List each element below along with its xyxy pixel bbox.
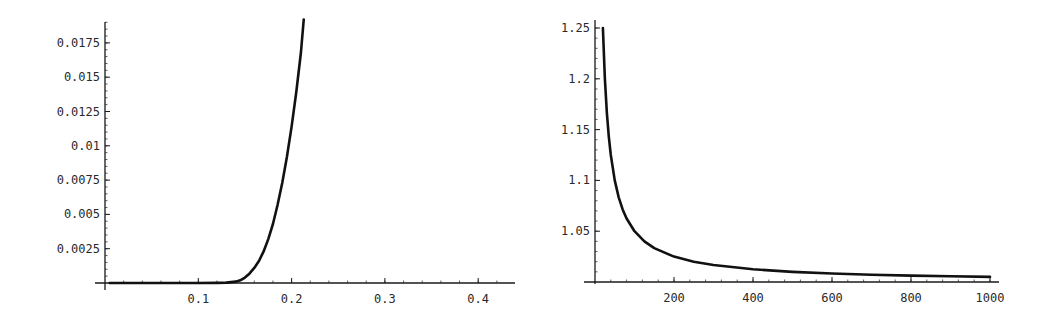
y-tick-label: 1.2 <box>568 72 590 86</box>
x-tick-label: 0.1 <box>187 292 209 306</box>
right-plot: 1.051.11.151.21.252004006008001000 <box>561 20 1004 305</box>
figure: 0.00250.0050.00750.010.01250.0150.01750.… <box>0 0 1037 325</box>
left-plot: 0.00250.0050.00750.010.01250.0150.01750.… <box>57 20 515 306</box>
y-tick-label: 1.15 <box>561 123 590 137</box>
x-tick-label: 400 <box>742 291 764 305</box>
x-tick-label: 1000 <box>976 291 1005 305</box>
y-tick-label: 0.0125 <box>57 105 100 119</box>
x-tick-label: 0.2 <box>281 292 303 306</box>
x-tick-label: 0.4 <box>467 292 489 306</box>
y-tick-label: 0.015 <box>64 70 100 84</box>
y-tick-label: 1.05 <box>561 224 590 238</box>
x-tick-label: 200 <box>663 291 685 305</box>
y-tick-label: 1.25 <box>561 21 590 35</box>
y-tick-label: 0.01 <box>71 139 100 153</box>
y-tick-label: 0.0175 <box>57 36 100 50</box>
y-tick-label: 1.1 <box>568 173 590 187</box>
y-tick-label: 0.0075 <box>57 173 100 187</box>
x-tick-label: 600 <box>821 291 843 305</box>
x-tick-label: 0.3 <box>374 292 396 306</box>
y-tick-label: 0.005 <box>64 207 100 221</box>
y-tick-label: 0.0025 <box>57 242 100 256</box>
series-line <box>110 20 304 283</box>
x-tick-label: 800 <box>900 291 922 305</box>
series-line <box>603 28 990 277</box>
